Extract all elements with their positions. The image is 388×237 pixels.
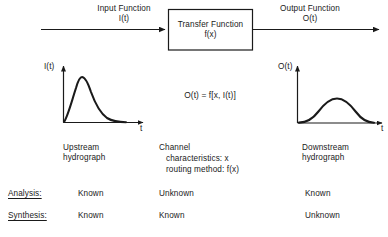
downstream-hydrograph-curve [299,99,374,123]
transfer-function-box [169,10,253,51]
figure-canvas: Input Function I(t) Transfer Function f(… [0,0,388,237]
upstream-hydrograph-curve [64,77,126,122]
diagram-vector-layer [0,0,388,237]
